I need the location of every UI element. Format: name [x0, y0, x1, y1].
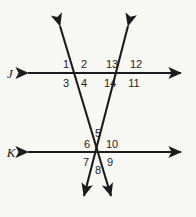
angle-label-11: 11: [128, 78, 139, 89]
angle-label-9: 9: [107, 157, 113, 168]
angle-label-7: 7: [83, 157, 89, 168]
angle-label-10: 10: [106, 139, 118, 150]
angle-label-14: 14: [104, 78, 116, 89]
geometry-canvas: [0, 0, 196, 217]
angle-label-5: 5: [95, 128, 101, 139]
angle-label-1: 1: [63, 59, 69, 70]
angle-label-6: 6: [84, 139, 90, 150]
angle-label-12: 12: [130, 59, 142, 70]
angle-label-13: 13: [106, 59, 118, 70]
line-label-j: J: [7, 67, 13, 80]
transversal-right: [84, 26, 128, 196]
angle-label-4: 4: [81, 78, 87, 89]
angle-label-2: 2: [81, 59, 87, 70]
line-label-k: K: [7, 146, 16, 159]
angle-label-8: 8: [95, 165, 101, 176]
transversal-left-group: [60, 26, 111, 196]
geometry-figure: J K 1 2 13 12 3 4 14 11 5 6 10 7 9 8: [0, 0, 196, 217]
transversal-left: [60, 26, 111, 196]
transversal-right-group: [84, 26, 128, 196]
angle-label-3: 3: [63, 78, 69, 89]
